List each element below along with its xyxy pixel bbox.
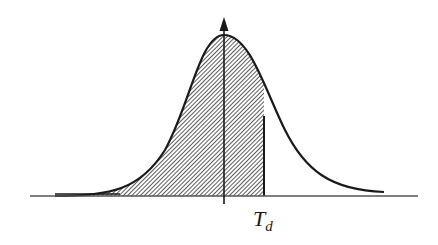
threshold-label: Td [253,206,273,235]
shaded-area [55,35,384,196]
threshold-label-subscript: d [265,218,273,234]
threshold-label-main: T [253,206,265,231]
y-axis-arrow-icon [220,17,229,31]
diagram-canvas [0,0,438,245]
